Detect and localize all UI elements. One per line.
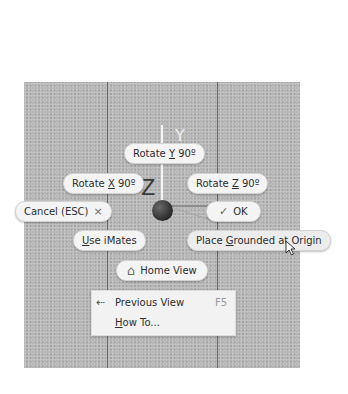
home-view-button[interactable]: ⌂ Home View [116,260,208,281]
cancel-label: Cancel (ESC) [24,202,89,221]
home-view-label: Home View [140,261,196,280]
rotate-y-suffix: 90º [175,148,196,159]
y-axis-line [161,125,163,205]
rotate-z-key: Z [232,178,239,189]
menu-item-how-to[interactable]: How To... [92,313,235,333]
how-to-key: H [115,317,123,328]
place-grounded-at-origin-button[interactable]: Place Grounded at Origin [187,230,331,251]
menu-item-previous-view[interactable]: ⇠ Previous View F5 [92,293,235,313]
use-imates-button[interactable]: Use iMates [73,230,146,251]
overflow-menu: ⇠ Previous View F5 How To... [91,290,236,336]
previous-view-icon: ⇠ [96,293,105,313]
previous-view-shortcut: F5 [215,293,227,313]
rotate-y-prefix: Rotate [133,148,169,159]
place-grounded-key: G [226,235,234,246]
ok-button[interactable]: ✓ OK [206,201,261,222]
rotate-x-suffix: 90º [115,178,136,189]
close-icon: × [94,202,103,221]
place-grounded-prefix: Place [196,235,226,246]
rotate-z-button[interactable]: Rotate Z 90º [187,173,268,194]
use-imates-label: se iMates [89,235,136,246]
origin-point [152,200,173,221]
rotate-x-key: X [108,178,115,189]
ok-label: OK [233,202,247,221]
rotate-y-button[interactable]: Rotate Y 90º [124,143,205,164]
cancel-button[interactable]: Cancel (ESC) × [15,201,112,222]
rotate-x-prefix: Rotate [72,178,108,189]
home-icon: ⌂ [127,261,135,280]
previous-view-label: Previous View [115,293,184,313]
how-to-label: ow To... [123,317,160,328]
rotate-z-prefix: Rotate [196,178,232,189]
y-axis-label: Y [175,128,185,144]
rotate-x-button[interactable]: Rotate X 90º [63,173,144,194]
rotate-z-suffix: 90º [239,178,260,189]
place-grounded-rest: rounded at Origin [234,235,322,246]
checkmark-icon: ✓ [219,202,228,221]
